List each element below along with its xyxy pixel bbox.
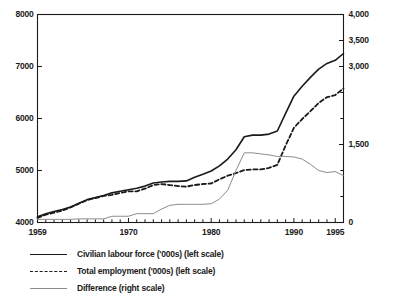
x-axis-tick-label: 1990 <box>274 228 314 237</box>
y-left-tick-label: 6000 <box>15 114 33 123</box>
y-left-tick-label: 5000 <box>15 166 33 175</box>
legend-item[interactable]: Civilian labour force ('000s) (left scal… <box>30 247 224 262</box>
legend-item[interactable]: Difference (right scale) <box>30 281 164 296</box>
dashed-line-swatch <box>30 267 67 277</box>
y-right-tick-label: 1,500 <box>349 140 369 149</box>
legend-item-label: Difference (right scale) <box>77 284 164 293</box>
x-axis-tick-label: 1980 <box>191 228 231 237</box>
chart-figure: 4000500060007000800001,5003,0003,5004,00… <box>0 0 397 301</box>
x-axis-tick-label: 1970 <box>108 228 148 237</box>
legend-item[interactable]: Total employment ('000s) (left scale) <box>30 264 215 279</box>
y-right-tick-label: 3,000 <box>349 62 369 71</box>
x-axis-tick-label: 1959 <box>18 228 58 237</box>
chart-legend: Civilian labour force ('000s) (left scal… <box>0 247 397 301</box>
x-axis-tick-label: 1995 <box>315 228 355 237</box>
series-line-1 <box>38 88 344 217</box>
y-right-tick-label: 3,500 <box>349 36 369 45</box>
y-right-tick-label: 4,000 <box>349 10 369 19</box>
legend-item-label: Civilian labour force ('000s) (left scal… <box>77 250 224 259</box>
y-left-tick-label: 7000 <box>15 62 33 71</box>
y-left-tick-label: 4000 <box>15 218 33 227</box>
solid-line-swatch <box>30 250 67 260</box>
thin-line-swatch <box>30 284 67 294</box>
y-right-tick-label: 0 <box>349 218 354 227</box>
series-line-0 <box>38 54 344 217</box>
legend-item-label: Total employment ('000s) (left scale) <box>77 267 215 276</box>
y-left-tick-label: 8000 <box>15 10 33 19</box>
plot-frame <box>38 15 344 223</box>
